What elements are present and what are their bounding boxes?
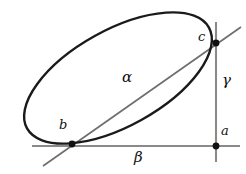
ellipse-curve <box>4 0 232 170</box>
label-point-c: c <box>198 30 205 43</box>
label-segment-gamma: γ <box>222 73 231 88</box>
figure-canvas <box>0 0 246 174</box>
label-point-b: b <box>59 118 67 131</box>
point-marker-b <box>69 141 76 148</box>
point-marker-c <box>213 40 220 47</box>
label-point-a: a <box>221 124 229 137</box>
label-segment-beta: β <box>134 150 143 165</box>
label-segment-alpha: α <box>122 70 132 85</box>
point-marker-a <box>213 143 220 150</box>
geometry-figure: a b c α β γ <box>0 0 246 174</box>
